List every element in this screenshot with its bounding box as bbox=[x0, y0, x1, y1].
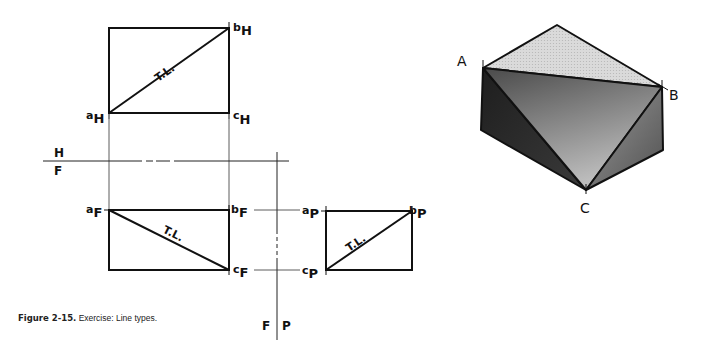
label-aH: aH bbox=[86, 109, 104, 126]
hf-fold-line: H F bbox=[43, 146, 289, 178]
profile-view-true-length-line bbox=[326, 211, 412, 270]
front-view: T.L. aF bF cF bbox=[86, 203, 248, 280]
figure-number: Figure 2-15. bbox=[18, 313, 76, 323]
label-aP: aP bbox=[302, 204, 319, 221]
label-bF: bF bbox=[231, 203, 248, 220]
top-view-tl-label: T.L. bbox=[152, 62, 177, 85]
label-bH: bH bbox=[233, 21, 252, 38]
fold-label-H: H bbox=[54, 146, 64, 160]
isometric-solid: A B C bbox=[457, 25, 679, 216]
top-view: T.L. aH bH cH bbox=[86, 21, 252, 127]
orthographic-drawing: T.L. aH bH cH H F F P T.L. aF bF cF bbox=[0, 0, 720, 359]
label-cH: cH bbox=[233, 109, 250, 127]
front-view-true-length-line bbox=[109, 210, 229, 270]
profile-view: T.L. aP bP cP bbox=[302, 204, 426, 281]
fold-label-P: P bbox=[282, 319, 291, 333]
label-cP: cP bbox=[302, 264, 318, 281]
fold-label-F2: F bbox=[262, 319, 270, 333]
iso-label-B: B bbox=[669, 87, 679, 103]
projection-lines-vertical bbox=[109, 119, 229, 210]
iso-label-C: C bbox=[580, 200, 590, 216]
fp-fold-line: F P bbox=[262, 152, 291, 340]
figure-description: Exercise: Line types. bbox=[76, 313, 157, 323]
label-aF: aF bbox=[86, 203, 102, 220]
label-cF: cF bbox=[233, 263, 248, 280]
figure-caption: Figure 2-15. Exercise: Line types. bbox=[18, 313, 188, 324]
iso-label-A: A bbox=[457, 53, 467, 69]
profile-view-tl-label: T.L. bbox=[343, 232, 368, 255]
fold-label-F: F bbox=[54, 164, 62, 178]
